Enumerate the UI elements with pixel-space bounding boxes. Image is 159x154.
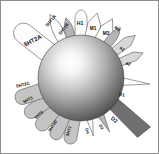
- diagram-stage: 5HT2A5HT1A5HT1BH1M1M3M4a1a2D1D2D3D45HT75…: [1, 1, 158, 153]
- receptor-affinity-figure: 5HT2A5HT1A5HT1BH1M1M3M4a1a2D1D2D3D45HT75…: [0, 0, 159, 154]
- drug-molecule-sphere: [38, 35, 124, 121]
- receptor-label-d4: D4: [84, 128, 90, 135]
- starburst-diagram: 5HT2A5HT1A5HT1BH1M1M3M4a1a2D1D2D3D45HT75…: [1, 1, 159, 154]
